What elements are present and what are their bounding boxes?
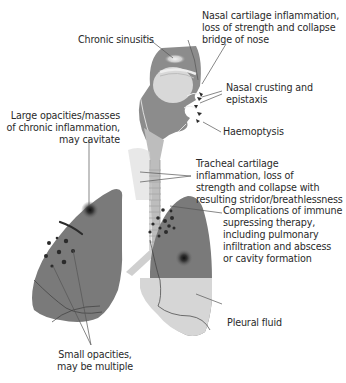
label-line: supressing therapy, bbox=[223, 217, 342, 229]
label-line: infiltration and abscess bbox=[223, 241, 342, 253]
label-pleural-fluid: Pleural fluid bbox=[227, 317, 282, 329]
lung-right-view bbox=[140, 196, 212, 336]
label-line: or cavity formation bbox=[223, 253, 342, 265]
label-line: including pulmonary bbox=[223, 229, 342, 241]
label-nasal-crusting: Nasal crusting and epistaxis bbox=[226, 82, 313, 106]
label-line: Chronic sinusitis bbox=[78, 34, 154, 46]
label-line: Nasal crusting and bbox=[226, 82, 313, 94]
label-small-opacities: Small opacities, may be multiple bbox=[40, 349, 150, 373]
cavity-lesion bbox=[175, 249, 193, 267]
label-line: Small opacities, bbox=[40, 349, 150, 361]
label-line: bridge of nose bbox=[202, 34, 339, 46]
label-line: of chronic inflammation, bbox=[0, 122, 120, 134]
label-tracheal-cartilage: Tracheal cartilage inflammation, loss of… bbox=[196, 158, 343, 206]
respiratory-diagram: Nasal cartilage inflammation, loss of st… bbox=[0, 0, 346, 383]
pleural-fluid-area bbox=[140, 278, 212, 336]
sinus-highlight bbox=[164, 54, 186, 64]
label-chronic-sinusitis: Chronic sinusitis bbox=[78, 34, 154, 46]
label-nasal-cartilage: Nasal cartilage inflammation, loss of st… bbox=[202, 10, 339, 46]
label-line: may be multiple bbox=[40, 361, 150, 373]
label-line: may cavitate bbox=[0, 134, 120, 146]
label-line: Tracheal cartilage bbox=[196, 158, 343, 170]
label-line: loss of strength and collapse bbox=[202, 22, 339, 34]
label-line: Large opacities/masses bbox=[0, 110, 120, 122]
label-line: strength and collapse with bbox=[196, 182, 343, 194]
label-large-opacities: Large opacities/masses of chronic inflam… bbox=[0, 110, 120, 146]
large-opacity-lesion bbox=[81, 201, 99, 219]
label-line: Pleural fluid bbox=[227, 317, 282, 329]
label-haemoptysis: Haemoptysis bbox=[223, 126, 284, 138]
label-line: epistaxis bbox=[226, 94, 313, 106]
label-immune-complications: Complications of immune supressing thera… bbox=[223, 205, 342, 265]
lung-left-view bbox=[32, 189, 122, 322]
label-line: Complications of immune bbox=[223, 205, 342, 217]
label-line: Nasal cartilage inflammation, bbox=[202, 10, 339, 22]
label-line: Haemoptysis bbox=[223, 126, 284, 138]
label-line: inflammation, loss of bbox=[196, 170, 343, 182]
